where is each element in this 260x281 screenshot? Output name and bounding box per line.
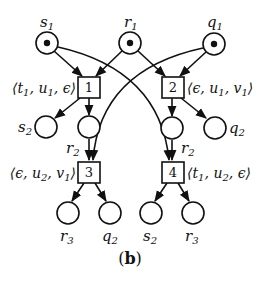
transition-4-id: 4	[169, 165, 177, 180]
transition-4-label: ⟨t1, u2, ϵ⟩	[187, 165, 251, 183]
transition-2-label: ⟨ϵ, u1, v1⟩	[187, 80, 253, 98]
transition-3-id: 3	[85, 165, 93, 180]
token-r1	[127, 40, 133, 46]
label-q1: q1	[207, 13, 223, 32]
label-r2-right: r2	[181, 139, 195, 158]
label-r2-left: r2	[66, 139, 80, 158]
label-q2-right: q2	[229, 119, 245, 138]
transition-3-label: ⟨ϵ, u2, v1⟩	[10, 165, 76, 183]
place-r2-right	[161, 117, 183, 139]
token-s1	[44, 40, 50, 46]
label-r3-right: r3	[185, 227, 199, 246]
label-s2-left: s2	[18, 118, 32, 137]
place-q2-bottom	[99, 202, 121, 224]
label-r3-left: r3	[60, 227, 74, 246]
arc-t2-q2	[181, 98, 206, 118]
place-r3-right	[182, 202, 204, 224]
place-s2-left	[35, 116, 57, 138]
place-q2-right	[204, 117, 226, 139]
label-q2-bottom: q2	[102, 227, 118, 246]
arc-t3-r3	[72, 183, 84, 201]
place-s2-bottom	[140, 202, 162, 224]
arc-t3-q2	[95, 183, 106, 201]
arc-t1-s2	[55, 98, 80, 118]
place-r3-left	[57, 202, 79, 224]
label-r1: r1	[124, 13, 138, 32]
transition-1-label: ⟨t1, u1, ϵ⟩	[12, 80, 76, 98]
petri-net-diagram: 1 2 3 4 s1 r1 q1 s2 r2 r2 q2 r3 q2 s2 r3…	[0, 0, 260, 281]
place-r2-left	[78, 116, 100, 138]
transition-2-id: 2	[169, 80, 177, 95]
token-q1	[211, 41, 217, 47]
arc-t4-r3	[178, 183, 189, 201]
label-s2-bottom: s2	[143, 227, 157, 246]
arc-q1-t2	[180, 52, 206, 76]
transition-1-id: 1	[85, 80, 93, 95]
arc-t4-s2	[155, 183, 167, 201]
arc-s1-t1	[54, 51, 82, 76]
label-s1: s1	[40, 13, 54, 32]
figure-caption: (b)	[118, 249, 142, 268]
